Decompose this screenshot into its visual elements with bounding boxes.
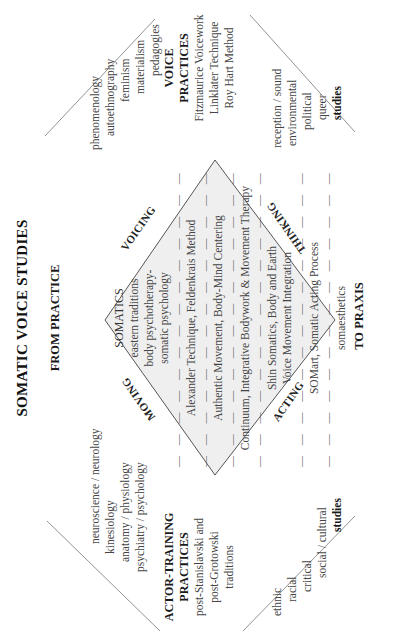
somatics-content: SOMATICS eastern traditions body psychot…	[112, 166, 349, 470]
somatics-line: somatic psychology	[157, 166, 172, 470]
humanities-item: autoethnography	[103, 59, 118, 136]
science-item: anatomy / physiology	[118, 462, 133, 562]
voice-practice-item: Linklater Technique	[207, 0, 222, 136]
humanities-item: phenomenology	[88, 76, 103, 150]
voice-practices-block: VOICE PRACTICES Fitzmaurice Voicework Li…	[162, 0, 237, 136]
studies-item: social / cultural	[315, 507, 330, 578]
studies-item: ethnic	[270, 588, 285, 616]
voice-practices-heading-2: PRACTICES	[177, 0, 192, 136]
somatics-line: eastern traditions	[127, 166, 142, 470]
science-item: psychiatry / psychology	[133, 462, 148, 572]
dashed-divider: — — — — — — — — — — — — — —	[199, 166, 211, 470]
humanities-item: materialism	[133, 40, 148, 94]
science-item: neuroscience / neurology	[88, 428, 103, 544]
actor-training-item: post-Grotowski	[207, 502, 222, 632]
practice-item: Voice Movement Integration	[280, 166, 295, 470]
studies-item: political	[300, 92, 315, 130]
actor-training-item: post-Stanislavski and	[192, 502, 207, 632]
studies-item: critical	[300, 560, 315, 592]
studies-footer: studies	[330, 86, 345, 120]
actor-training-item: traditions	[222, 502, 237, 632]
humanities-item: pedagogies	[148, 24, 163, 76]
practice-item: SOMart, Somatic Acting Process	[307, 166, 322, 470]
voice-practices-heading: VOICE	[162, 0, 177, 136]
somatics-line: body psychotherapy-	[142, 166, 157, 470]
studies-item: racial	[285, 576, 300, 602]
dashed-divider: — — — — — — — — — — — — — —	[172, 166, 184, 470]
practice-item: Alexander Technique, Feldenkrais Method	[184, 166, 199, 470]
practice-item: Continuum, Integrative Bodywork & Moveme…	[238, 166, 253, 470]
diagram-canvas: SOMATIC VOICE STUDIES FROM PRACTICE TO P…	[0, 0, 393, 636]
dashed-divider: — — — — — — — — — — — — — —	[295, 166, 307, 470]
dashed-divider: — — — — — — — — — — — — — —	[253, 166, 265, 470]
voice-practice-item: Fitzmaurice Voicework	[192, 0, 207, 136]
studies-item: reception / sound	[270, 69, 285, 148]
to-praxis-label: TO PRAXIS	[352, 246, 367, 386]
actor-training-block: ACTOR-TRAINING PRACTICES post-Stanislavs…	[162, 502, 237, 632]
dashed-divider: — — — — — — — — — — — — — —	[322, 166, 334, 470]
corner-line-bottom-left	[243, 516, 355, 631]
actor-training-heading: ACTOR-TRAINING	[162, 502, 177, 632]
voice-practice-item: Roy Hart Method	[222, 0, 237, 136]
dashed-divider: — — — — — — — — — — — — — —	[226, 166, 238, 470]
practice-item: somaesthetics	[334, 166, 349, 470]
practice-item: Shin Somatics, Body and Earth	[265, 166, 280, 470]
science-item: kinesiology	[103, 500, 118, 554]
studies-footer: studies	[330, 498, 345, 532]
humanities-item: feminism	[118, 59, 133, 102]
studies-item: environmental	[285, 80, 300, 146]
actor-training-heading-2: PRACTICES	[177, 502, 192, 632]
from-practice-label: FROM PRACTICE	[48, 248, 63, 388]
somatics-heading: SOMATICS	[112, 166, 127, 470]
diagram-title: SOMATIC VOICE STUDIES	[14, 218, 31, 418]
studies-item: queer	[315, 94, 330, 120]
practice-item: Authentic Movement, Body-Mind Centering	[211, 166, 226, 470]
